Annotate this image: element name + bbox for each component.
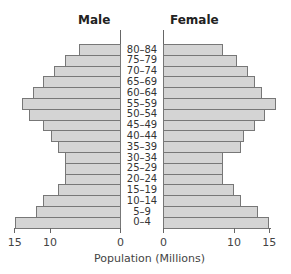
- x-tick-label: 0: [160, 236, 167, 249]
- male-title: Male: [78, 13, 110, 27]
- age-group-label: 0–4: [121, 217, 163, 228]
- x-tick: [14, 228, 15, 233]
- x-tick-label: 10: [43, 236, 57, 249]
- x-tick-label: 10: [227, 236, 241, 249]
- x-tick: [120, 228, 121, 233]
- age-group-label: 35–39: [121, 142, 163, 153]
- female-bar: [163, 217, 269, 229]
- male-bar: [15, 217, 121, 229]
- age-group-label: 10–14: [121, 196, 163, 207]
- x-tick-label: 15: [8, 236, 22, 249]
- x-tick: [50, 228, 51, 233]
- female-title: Female: [170, 13, 219, 27]
- x-tick: [163, 228, 164, 233]
- age-group-label: 60–64: [121, 88, 163, 99]
- x-tick: [234, 228, 235, 233]
- x-axis-label: Population (Millions): [0, 252, 291, 265]
- x-tick: [269, 228, 270, 233]
- x-tick-label: 0: [117, 236, 124, 249]
- x-tick-label: 15: [262, 236, 276, 249]
